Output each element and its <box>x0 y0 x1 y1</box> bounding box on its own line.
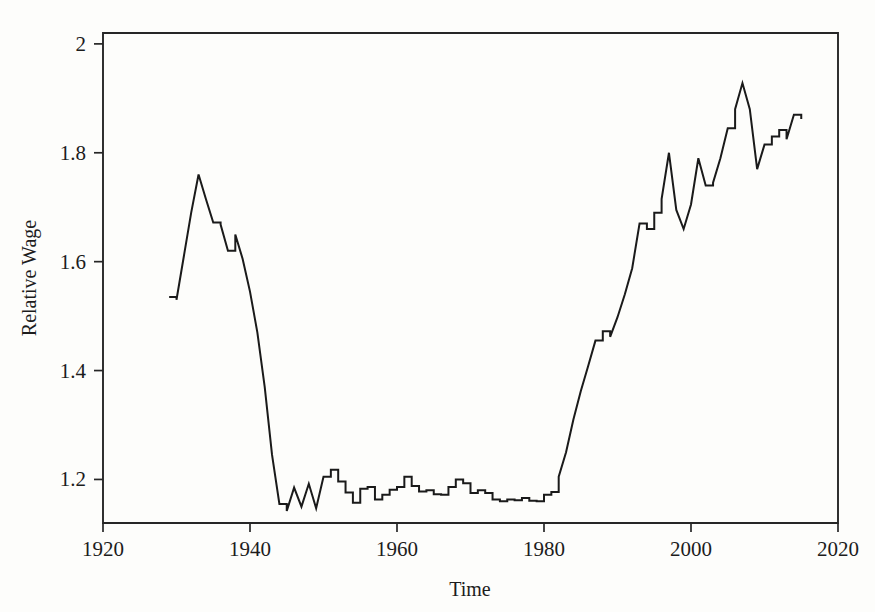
relative-wage-line-chart: 192019401960198020002020 1.21.41.61.82 T… <box>0 0 875 612</box>
relative-wage-series-line <box>169 83 801 511</box>
x-tick-label: 2000 <box>670 537 712 561</box>
x-tick-label: 1980 <box>523 537 565 561</box>
y-axis-title: Relative Wage <box>18 220 41 336</box>
y-tick-label: 1.6 <box>60 250 86 274</box>
x-axis-tick-labels: 192019401960198020002020 <box>82 537 859 561</box>
x-axis-ticks <box>103 523 838 532</box>
x-tick-label: 1940 <box>229 537 271 561</box>
x-tick-label: 1960 <box>376 537 418 561</box>
y-axis-tick-labels: 1.21.41.61.82 <box>60 32 87 492</box>
y-tick-label: 1.4 <box>60 359 87 383</box>
x-tick-label: 2020 <box>817 537 859 561</box>
y-tick-label: 1.2 <box>60 467 86 491</box>
y-tick-label: 2 <box>76 32 87 56</box>
y-tick-label: 1.8 <box>60 141 86 165</box>
plot-frame <box>103 33 838 523</box>
x-axis-title: Time <box>449 578 491 600</box>
figure-canvas: 192019401960198020002020 1.21.41.61.82 T… <box>0 0 875 612</box>
x-tick-label: 1920 <box>82 537 124 561</box>
y-axis-ticks <box>94 44 103 480</box>
